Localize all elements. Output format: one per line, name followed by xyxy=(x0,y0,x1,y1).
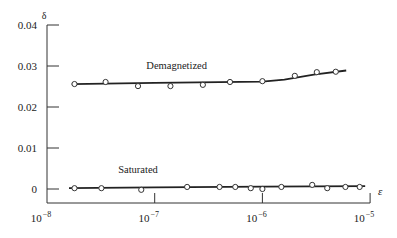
x-axis-label: ε xyxy=(378,185,383,197)
data-point xyxy=(343,184,348,189)
data-point xyxy=(227,79,232,84)
x-tick-label: 10−8 xyxy=(31,210,52,224)
data-point xyxy=(233,184,238,189)
data-point xyxy=(260,79,265,84)
data-point xyxy=(310,182,315,187)
data-point xyxy=(139,187,144,192)
chart-canvas: 00.010.020.030.04δ10−810−710−610−5ε Dema… xyxy=(0,0,397,238)
series-saturated: Saturated xyxy=(69,164,365,193)
fit-line xyxy=(72,71,346,85)
data-point xyxy=(325,186,330,191)
data-point xyxy=(279,184,284,189)
data-point xyxy=(99,186,104,191)
chart: 00.010.020.030.04δ10−810−710−610−5ε Dema… xyxy=(0,0,397,238)
series-demagnetized: Demagnetized xyxy=(72,60,346,89)
y-axis-label: δ xyxy=(42,10,47,21)
data-point xyxy=(168,83,173,88)
data-point xyxy=(72,81,77,86)
axes: 00.010.020.030.04δ10−810−710−610−5ε xyxy=(18,10,383,224)
data-point xyxy=(292,73,297,78)
data-point xyxy=(314,70,319,75)
series-label: Saturated xyxy=(118,164,158,175)
series-label: Demagnetized xyxy=(146,60,207,71)
data-point xyxy=(357,184,362,189)
data-point xyxy=(333,69,338,74)
data-point xyxy=(72,186,77,191)
y-tick-label: 0 xyxy=(32,183,38,195)
data-point xyxy=(217,184,222,189)
data-point xyxy=(248,186,253,191)
data-point xyxy=(185,184,190,189)
data-point xyxy=(135,83,140,88)
x-tick-label: 10−6 xyxy=(246,210,267,224)
x-tick-label: 10−7 xyxy=(138,210,159,224)
data-point xyxy=(260,186,265,191)
y-tick-label: 0.03 xyxy=(18,60,38,72)
data-point xyxy=(200,82,205,87)
y-tick-label: 0.02 xyxy=(18,101,37,113)
y-tick-label: 0.01 xyxy=(18,142,37,154)
x-tick-label: 10−5 xyxy=(354,210,375,224)
series-layer: DemagnetizedSaturated xyxy=(69,60,365,193)
y-tick-label: 0.04 xyxy=(18,19,38,31)
data-point xyxy=(103,79,108,84)
